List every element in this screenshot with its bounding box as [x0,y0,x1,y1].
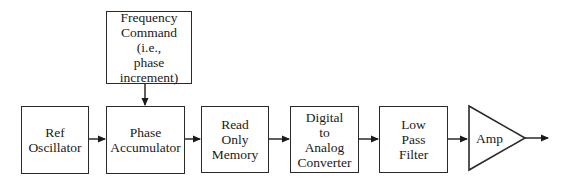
block-label-line: Filter [399,147,428,162]
block-label-line: to [319,125,330,140]
block-label-line: Read [221,117,249,132]
amp-label: Amp [476,131,503,146]
block-low-pass-filter: Low Pass Filter [379,106,448,173]
block-label-line: Analog [305,140,345,155]
block-label-line: increment) [120,70,178,85]
block-label-line: Accumulator [110,140,180,155]
block-ref-oscillator: Ref Oscillator [21,106,89,174]
block-label-line: Phase [130,125,162,140]
block-label-line: Converter [298,155,352,170]
block-read-only-memory: Read Only Memory [201,106,269,173]
block-label-line: Frequency [121,10,178,25]
block-label-line: Command [121,25,177,40]
block-label-line: Oscillator [28,140,81,155]
block-dac: Digital to Analog Converter [290,106,359,173]
block-label-line: phase [134,55,165,70]
block-label-line: Digital [306,110,344,125]
block-label-line: Memory [212,147,259,162]
block-label-line: Low [401,117,426,132]
block-label-line: Only [222,132,249,147]
block-phase-accumulator: Phase Accumulator [106,106,185,174]
block-label-line: Ref [45,125,65,140]
block-frequency-command: Frequency Command (i.e., phase increment… [106,11,192,84]
block-label-line: (i.e., [137,40,161,55]
block-label-line: Pass [401,132,425,147]
